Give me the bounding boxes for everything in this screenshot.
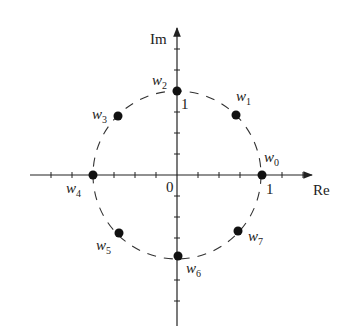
label-w5: w5 — [96, 237, 111, 256]
point-w4 — [89, 171, 98, 180]
label-w2: w2 — [152, 72, 167, 91]
label-w1: w1 — [236, 88, 251, 107]
imag-unit-label: 1 — [181, 96, 189, 112]
point-w3 — [114, 112, 123, 121]
point-w6 — [174, 252, 183, 261]
point-w7 — [234, 227, 243, 236]
complex-plane-diagram: Im Re 0 1 1 w0 w1 w2 w3 w4 w5 w6 w7 — [0, 0, 359, 333]
origin-label: 0 — [166, 179, 174, 195]
label-w4: w4 — [66, 180, 81, 199]
real-unit-label: 1 — [266, 181, 274, 197]
imag-axis-label: Im — [150, 31, 167, 47]
point-w0 — [258, 171, 267, 180]
label-w6: w6 — [186, 260, 201, 279]
real-axis-label: Re — [313, 182, 330, 198]
point-w1 — [232, 111, 241, 120]
label-w7: w7 — [248, 228, 263, 247]
label-w3: w3 — [92, 106, 107, 125]
point-w5 — [115, 229, 124, 238]
point-w2 — [173, 87, 182, 96]
label-w0: w0 — [264, 149, 279, 168]
